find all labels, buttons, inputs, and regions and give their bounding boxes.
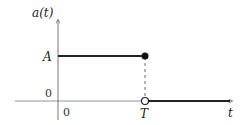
tick-label-y-zero: 0 (45, 87, 52, 100)
tick-label-a: A (42, 50, 52, 64)
tick-label-x-zero: 0 (63, 106, 70, 119)
x-axis-label: t (228, 106, 233, 120)
pulse-chart: a(t) t A 0 0 T (0, 0, 247, 125)
y-axis-label: a(t) (32, 6, 54, 20)
filled-endpoint-marker (142, 53, 149, 60)
open-endpoint-marker (142, 98, 149, 105)
tick-label-t: T (140, 107, 149, 121)
